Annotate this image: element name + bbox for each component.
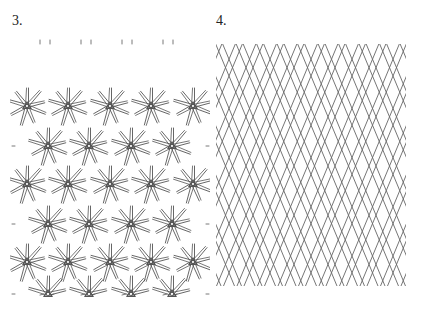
- star-motif: [91, 88, 129, 125]
- star-motif: [112, 276, 149, 296]
- star-motif: [29, 128, 67, 165]
- panel-3-label: 3.: [12, 14, 23, 28]
- star-motif: [10, 88, 46, 125]
- star-motif: [10, 244, 46, 281]
- star-motif: [112, 128, 150, 165]
- star-motif: [49, 166, 87, 203]
- star-motif: [174, 88, 210, 125]
- star-motif: [91, 244, 129, 281]
- star-motif: [70, 128, 108, 165]
- star-motif: [174, 244, 210, 281]
- star-motif: [132, 244, 170, 281]
- star-motif: [112, 206, 150, 243]
- star-motif: [153, 276, 190, 296]
- star-motif: [91, 166, 129, 203]
- panel-3-star-pattern: [10, 38, 210, 300]
- star-motif: [174, 166, 210, 203]
- star-motif: [49, 244, 87, 281]
- star-motif: [10, 166, 46, 203]
- panel-4-diamond-pattern: [214, 40, 410, 292]
- star-motif: [70, 276, 107, 296]
- star-motif: [132, 88, 170, 125]
- star-motif: [29, 206, 67, 243]
- star-motif: [49, 88, 87, 125]
- star-motif: [132, 166, 170, 203]
- star-motif: [153, 206, 191, 243]
- star-motif: [70, 206, 108, 243]
- star-motif: [29, 276, 66, 296]
- star-motif: [153, 128, 191, 165]
- panel-4-label: 4.: [216, 14, 227, 28]
